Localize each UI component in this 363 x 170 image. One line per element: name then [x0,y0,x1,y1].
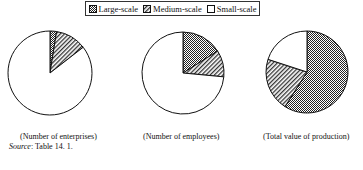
source-text: : Table 14. 1. [31,142,73,151]
pie-total-value-of-production [266,31,348,113]
caption-production: (Total value of production) [263,132,349,141]
source-label: Source [9,142,31,151]
pie-number-of-employees [142,32,224,114]
caption-employees: (Number of employees) [143,132,219,141]
caption-enterprises: (Number of enterprises) [20,132,97,141]
source-note: Source: Table 14. 1. [9,142,73,151]
pie-number-of-enterprises [8,31,92,115]
